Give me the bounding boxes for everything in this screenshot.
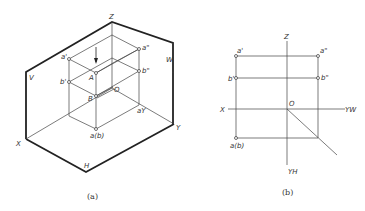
label-b-side: b" <box>142 67 150 75</box>
label-x: X <box>219 106 225 114</box>
point-B <box>95 95 98 98</box>
diagonal-45 <box>287 109 337 155</box>
projection-diagram: Z V W H X Y a' a" b' b" A B O aY a(b) (a… <box>0 0 365 211</box>
point-a-front <box>68 58 71 61</box>
label-x: X <box>15 140 21 148</box>
label-z: Z <box>283 33 289 41</box>
proj-a-back <box>96 63 113 73</box>
line-BO <box>96 87 113 96</box>
figure-b: Z a' a" b' b" X O YW a(b) YH (b) <box>219 33 357 197</box>
label-a-top: a(b) <box>90 132 104 140</box>
label-b-front: b' <box>228 75 234 83</box>
label-B: B <box>88 95 93 103</box>
proj-line <box>113 49 139 63</box>
label-yw: YW <box>345 106 357 114</box>
point-a-top <box>95 128 98 131</box>
label-yh: YH <box>288 168 298 176</box>
arrow-head-icon <box>94 58 98 64</box>
label-z: Z <box>108 13 114 21</box>
label-a-front: a' <box>237 47 243 55</box>
label-a-top: a(b) <box>230 142 244 150</box>
label-a-side: a" <box>142 44 150 52</box>
label-A: A <box>88 74 94 82</box>
label-w: W <box>166 56 174 64</box>
label-y: Y <box>176 124 181 132</box>
point-b-front <box>235 77 238 80</box>
label-a-front: a' <box>61 53 67 61</box>
point-b-side <box>317 77 320 80</box>
point-b-side <box>138 70 141 73</box>
point-a-top <box>235 137 238 140</box>
point-A <box>95 72 98 75</box>
label-O: O <box>114 86 120 94</box>
label-o: O <box>289 100 295 108</box>
label-b-front: b' <box>60 78 66 86</box>
y-axis <box>112 88 174 124</box>
label-a-y: aY <box>137 107 146 115</box>
proj-a-top <box>69 49 139 73</box>
proj-bottom <box>69 105 139 129</box>
proj-a-side-line <box>112 35 139 49</box>
proj-a-front-line <box>69 35 112 59</box>
caption-b: (b) <box>282 188 293 197</box>
point-a-side <box>138 48 141 51</box>
label-h: H <box>84 162 90 170</box>
proj-b <box>69 71 139 96</box>
caption-a: (a) <box>87 192 98 201</box>
label-v: V <box>29 74 35 82</box>
point-b-front <box>68 81 71 84</box>
label-a-side: a" <box>320 47 328 55</box>
label-b-side: b" <box>321 74 329 82</box>
proj-b-side <box>112 58 139 71</box>
figure-a: Z V W H X Y a' a" b' b" A B O aY a(b) (a… <box>15 13 181 201</box>
v-plane-outline <box>26 22 173 139</box>
